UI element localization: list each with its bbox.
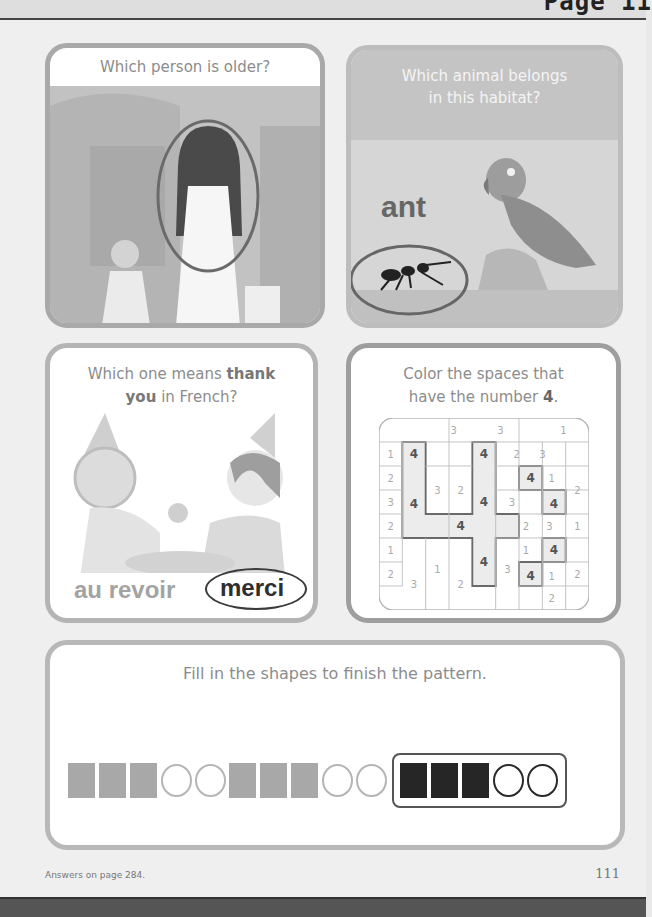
- question-habitat-line1: Which animal belongs: [351, 65, 618, 87]
- square-shape: [68, 763, 95, 798]
- grid-number: 4: [480, 447, 488, 461]
- grid-number: 4: [550, 543, 558, 557]
- card-french: Which one means thank you in French? au …: [45, 343, 318, 623]
- question-french-bold-you: you: [126, 388, 157, 406]
- question-french-line1: Which one means thank: [50, 363, 313, 385]
- question-french-bold-thank: thank: [227, 365, 276, 383]
- grid-number: 1: [548, 473, 554, 484]
- grid-number: 1: [387, 449, 393, 460]
- circle-shape: [356, 764, 387, 797]
- grid-number: 3: [434, 485, 440, 496]
- page-label: Page 11: [544, 0, 652, 16]
- question-french-suffix: in French?: [156, 388, 237, 406]
- question-color-prefix: have the number: [409, 388, 543, 406]
- square-shape: [99, 763, 126, 798]
- grid-number: 3: [546, 521, 552, 532]
- grid-numbers: 3311442324132234434242311144132241322: [379, 418, 589, 610]
- square-shape: [130, 763, 157, 798]
- circle-shape: [161, 764, 192, 797]
- word-ant: ant: [381, 190, 426, 224]
- grid-number: 2: [387, 473, 393, 484]
- grid-number: 4: [526, 471, 534, 485]
- grid-number: 3: [411, 578, 417, 589]
- square-shape: [229, 763, 256, 798]
- page-number: 111: [595, 866, 620, 881]
- grid-number: 3: [509, 497, 515, 508]
- answers-note: Answers on page 284.: [45, 870, 145, 880]
- question-pattern: Fill in the shapes to finish the pattern…: [50, 663, 620, 685]
- circle-shape: [493, 764, 524, 797]
- option-au-revoir: au revoir: [74, 576, 175, 604]
- grid-number: 3: [387, 497, 393, 508]
- grid-number: 1: [548, 571, 554, 582]
- illustration-party-kids: [50, 413, 313, 573]
- grid-number: 3: [450, 425, 456, 436]
- grid-number: 4: [410, 497, 418, 511]
- square-shape: [431, 763, 458, 798]
- grid-number: 4: [456, 519, 464, 533]
- square-shape: [400, 763, 427, 798]
- question-habitat-line2: in this habitat?: [351, 87, 618, 109]
- square-shape: [462, 763, 489, 798]
- question-french-line2: you in French?: [50, 386, 313, 408]
- card-pattern: Fill in the shapes to finish the pattern…: [45, 640, 625, 850]
- question-color-line2: have the number 4.: [351, 386, 616, 408]
- grid-number: 2: [457, 578, 463, 589]
- card-habitat: Which animal belongs in this habitat? an…: [346, 45, 623, 328]
- question-color-suffix: .: [553, 388, 558, 406]
- grid-number: 3: [497, 425, 503, 436]
- grid-number: 2: [548, 593, 554, 604]
- grid-number: 4: [480, 555, 488, 569]
- grid-number: 1: [523, 545, 529, 556]
- grid-number: 1: [574, 521, 580, 532]
- question-french-prefix: Which one means: [88, 365, 227, 383]
- pattern-row: [68, 753, 567, 808]
- grid-number: 1: [434, 564, 440, 575]
- top-bar: Page 11: [0, 0, 646, 20]
- grid-number: 4: [410, 447, 418, 461]
- grid-number: 4: [480, 495, 488, 509]
- card-color-grid: Color the spaces that have the number 4.: [346, 343, 621, 623]
- square-shape: [291, 763, 318, 798]
- question-color-line1: Color the spaces that: [351, 363, 616, 385]
- circle-shape: [527, 764, 558, 797]
- bottom-bar: [0, 897, 646, 917]
- question-older: Which person is older?: [50, 56, 320, 78]
- option-merci: merci: [220, 574, 284, 602]
- grid-number: 3: [504, 564, 510, 575]
- grid-number: 1: [560, 425, 566, 436]
- circle-shape: [195, 764, 226, 797]
- grid-number: 2: [513, 449, 519, 460]
- answer-box[interactable]: [392, 753, 567, 808]
- square-shape: [260, 763, 287, 798]
- grid-number: 3: [539, 449, 545, 460]
- grid-number: 2: [523, 521, 529, 532]
- grid-number: 2: [457, 485, 463, 496]
- grid-number: 4: [526, 569, 534, 583]
- grid-number: 2: [387, 569, 393, 580]
- photo-woman-and-girl: [50, 86, 320, 323]
- card-older-person: Which person is older?: [45, 43, 325, 328]
- grid-number: 2: [574, 569, 580, 580]
- grid-number: 2: [387, 521, 393, 532]
- grid-number: 4: [550, 497, 558, 511]
- question-color-bold-number: 4: [543, 388, 553, 406]
- grid-number: 1: [387, 545, 393, 556]
- circle-shape: [322, 764, 353, 797]
- grid-number: 2: [574, 485, 580, 496]
